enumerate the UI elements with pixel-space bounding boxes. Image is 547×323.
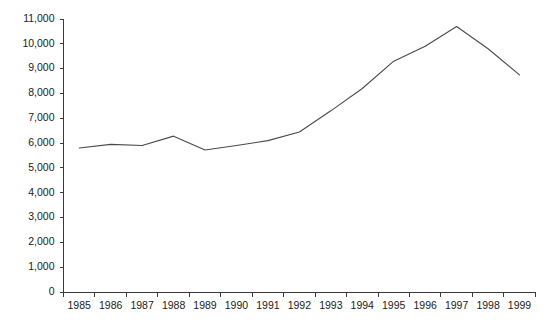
y-axis-tick-label: 6,000 (28, 136, 54, 148)
y-axis-group: 01,0002,0003,0004,0005,0006,0007,0008,00… (22, 12, 63, 297)
y-axis-tick-label: 9,000 (28, 61, 54, 73)
y-axis-tick-label: 3,000 (28, 210, 54, 222)
x-axis-tick-label: 1993 (319, 299, 343, 311)
x-axis-tick-label: 1985 (68, 299, 92, 311)
x-axis-tick-label: 1994 (351, 299, 375, 311)
y-axis-tick-label: 7,000 (28, 111, 54, 123)
x-axis-tick-label: 1991 (256, 299, 280, 311)
y-axis-tick-label: 2,000 (28, 235, 54, 247)
x-axis-tick-label: 1998 (476, 299, 500, 311)
x-axis-tick-label: 1996 (413, 299, 437, 311)
y-axis-tick-labels: 01,0002,0003,0004,0005,0006,0007,0008,00… (22, 12, 54, 297)
x-axis-group: 1985198619871988198919901991199219931994… (64, 292, 536, 311)
x-axis-tick-label: 1997 (445, 299, 469, 311)
y-axis-ticks (60, 19, 64, 292)
y-axis-tick-label: 10,000 (22, 37, 54, 49)
y-axis-tick-label: 5,000 (28, 161, 54, 173)
x-axis-tick-label: 1992 (288, 299, 312, 311)
line-chart: 01,0002,0003,0004,0005,0006,0007,0008,00… (0, 0, 547, 323)
y-axis-tick-label: 4,000 (28, 186, 54, 198)
y-axis-tick-label: 8,000 (28, 86, 54, 98)
y-axis-tick-label: 11,000 (23, 12, 54, 24)
x-axis-tick-label: 1990 (225, 299, 249, 311)
x-axis-tick-label: 1988 (162, 299, 186, 311)
x-axis-tick-labels: 1985198619871988198919901991199219931994… (68, 299, 532, 311)
x-axis-tick-label: 1999 (508, 299, 532, 311)
data-series-group (79, 26, 519, 150)
data-line-series-0 (79, 26, 519, 150)
x-axis-tick-label: 1989 (193, 299, 217, 311)
x-axis-tick-label: 1986 (99, 299, 123, 311)
chart-canvas: 01,0002,0003,0004,0005,0006,0007,0008,00… (0, 0, 547, 323)
x-axis-tick-label: 1995 (382, 299, 406, 311)
x-axis-tick-label: 1987 (130, 299, 154, 311)
y-axis-tick-label: 1,000 (28, 260, 54, 272)
y-axis-tick-label: 0 (49, 285, 55, 297)
